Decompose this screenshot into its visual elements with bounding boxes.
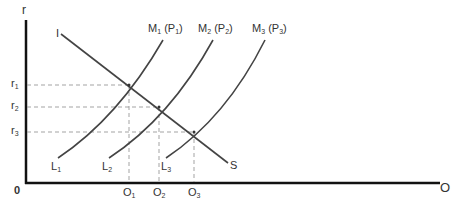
lm-bottom-label-2: L2 [102, 161, 112, 173]
y-axis-label: r [22, 4, 26, 16]
lm-top-label-2: M2 (P2) [198, 23, 233, 35]
lm-bottom-label-3: L3 [161, 161, 171, 173]
is-end-label: S [230, 160, 237, 171]
x-axis-label: O [440, 181, 450, 194]
origin-label: 0 [14, 185, 20, 196]
lm-curve-3 [166, 40, 265, 158]
lm-top-label-1: M1 (P1) [148, 23, 183, 35]
x-tick-o2: O2 [153, 187, 165, 199]
x-tick-o3: O3 [188, 187, 200, 199]
y-tick-r3: r3 [11, 125, 19, 137]
is-curve [61, 34, 228, 163]
lm-top-label-3: M3 (P3) [252, 23, 287, 35]
is-start-label: I [56, 28, 59, 39]
equilibrium-point-2 [158, 106, 161, 109]
y-tick-r1: r1 [11, 78, 19, 90]
equilibrium-point-1 [128, 84, 131, 87]
lm-bottom-label-1: L1 [51, 161, 61, 173]
equilibrium-point-3 [193, 131, 196, 134]
y-tick-r2: r2 [11, 100, 19, 112]
lm-curve-1 [58, 40, 163, 158]
x-tick-o1: O1 [123, 187, 135, 199]
